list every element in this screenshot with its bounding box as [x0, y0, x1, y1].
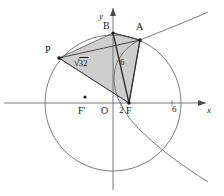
tick-label-2: 2 — [119, 106, 124, 115]
x-axis-label: x — [207, 106, 211, 115]
measurement-label-six: 6 — [120, 58, 125, 67]
point-label-A: A — [136, 22, 143, 32]
measurement-label-sqrt32: √32 — [74, 58, 89, 68]
point-label-F: F — [126, 106, 132, 116]
point-label-P: P — [45, 45, 51, 55]
point-label-F-prime: F′ — [78, 106, 86, 116]
geometry-figure-canvas: y x O 2 6 B A P F F′ √32 6 — [0, 0, 224, 196]
point-dot-A — [138, 38, 142, 42]
tick-label-6: 6 — [172, 105, 177, 114]
point-dot-F-prime — [83, 95, 86, 98]
origin-label: O — [101, 106, 108, 116]
x-axis-arrow-icon — [198, 100, 206, 106]
shaded-quadrilateral-PBAF — [59, 33, 140, 103]
radicand-value: 32 — [79, 57, 89, 68]
figure-vector-layer — [0, 0, 224, 196]
y-axis-arrow-icon — [110, 8, 116, 16]
point-label-B: B — [103, 21, 110, 31]
point-dot-B — [111, 31, 114, 34]
point-dot-P — [57, 56, 61, 60]
sqrt-symbol-group: √32 — [74, 58, 89, 68]
